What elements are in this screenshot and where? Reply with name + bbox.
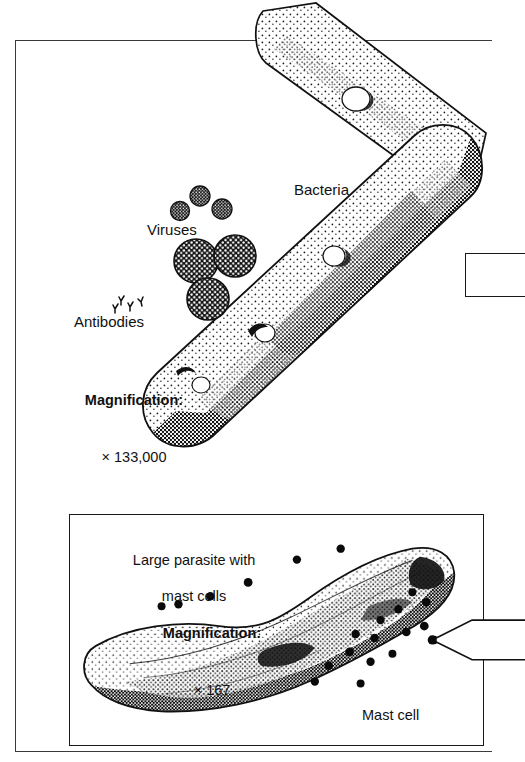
antibody-particles: [113, 296, 143, 313]
magnification-lower-word: Magnification:: [132, 625, 292, 642]
large-parasite-panel: Large parasite with mast cells Magnifica…: [69, 514, 484, 746]
figure-frame: Bacteria Viruses Antibodies Magnificatio…: [15, 40, 492, 752]
bacterium-upper-limb: [246, 0, 525, 221]
magnification-upper-value: × 133,000: [59, 449, 209, 466]
magnification-upper-word: Magnification:: [59, 392, 209, 409]
label-mast-cell: Mast cell: [362, 707, 419, 724]
bacteria-and-viruses-panel: Bacteria Viruses Antibodies Magnificatio…: [16, 41, 493, 501]
mast-cell-highlighted: [428, 635, 437, 644]
label-bacteria: Bacteria: [294, 181, 349, 199]
label-antibodies: Antibodies: [74, 313, 144, 331]
magnification-lower-value: × 167: [132, 682, 292, 699]
caption-line-1: Large parasite with: [133, 552, 256, 568]
callout-pointer-lower: [432, 620, 525, 660]
callout-box-upper: [465, 253, 525, 297]
virus-particles-small: [171, 186, 233, 221]
magnification-lower: Magnification: × 167: [132, 587, 292, 736]
magnification-upper: Magnification: × 133,000: [59, 354, 209, 503]
label-viruses: Viruses: [147, 221, 197, 239]
virus-particles-large: [174, 235, 256, 320]
